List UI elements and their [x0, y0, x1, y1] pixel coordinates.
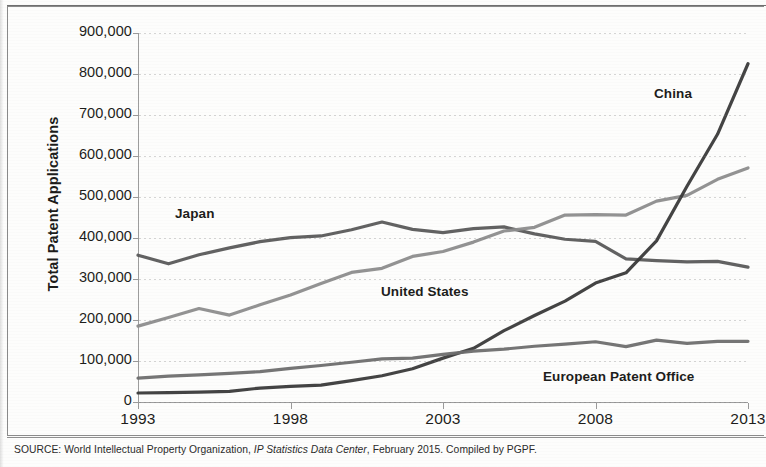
y-axis-tick: [133, 320, 139, 321]
gridline: [139, 361, 748, 362]
x-axis-tick: [138, 403, 139, 409]
y-axis-tick-label: 600,000: [40, 146, 132, 162]
page-scan-edge: [0, 0, 4, 467]
gridline: [139, 74, 748, 75]
gridline: [139, 197, 748, 198]
y-axis-line: [138, 33, 139, 403]
series-label-european-patent-office: European Patent Office: [543, 369, 694, 384]
x-axis-tick: [291, 403, 292, 409]
y-axis-tick: [133, 279, 139, 280]
y-axis-tick: [133, 33, 139, 34]
x-axis-tick-label: 2003: [403, 410, 483, 428]
y-axis-tick-label: 700,000: [40, 105, 132, 121]
y-axis-tick: [133, 361, 139, 362]
y-axis-tick-label: 400,000: [40, 228, 132, 244]
y-axis-tick: [133, 238, 139, 239]
source-suffix: , February 2015. Compiled by PGPF.: [367, 444, 537, 455]
y-axis-tick-label: 500,000: [40, 187, 132, 203]
x-axis-tick: [748, 403, 749, 409]
y-axis-tick-label: 100,000: [40, 351, 132, 367]
series-label-china: China: [654, 86, 692, 101]
scanned-page: Total Patent Applications 0100,000200,00…: [0, 0, 766, 467]
y-axis-tick: [133, 74, 139, 75]
gridline: [139, 33, 748, 34]
y-axis-tick: [133, 115, 139, 116]
gridline: [139, 320, 748, 321]
source-prefix: SOURCE: World Intellectual Property Orga…: [14, 444, 254, 455]
y-axis-tick-labels: 0100,000200,000300,000400,000500,000600,…: [32, 0, 132, 430]
source-note: SOURCE: World Intellectual Property Orga…: [14, 444, 537, 455]
x-axis-tick-label: 2008: [556, 410, 636, 428]
y-axis-tick-label: 800,000: [40, 64, 132, 80]
x-axis-tick: [596, 403, 597, 409]
series-label-united-states: United States: [381, 284, 469, 299]
gridline: [139, 279, 748, 280]
y-axis-tick-label: 300,000: [40, 269, 132, 285]
y-axis-tick-label: 900,000: [40, 23, 132, 39]
y-axis-tick-label: 0: [40, 392, 132, 408]
source-divider: [7, 437, 766, 438]
y-axis-tick: [133, 156, 139, 157]
y-axis-tick: [133, 197, 139, 198]
source-publication-title: IP Statistics Data Center: [254, 444, 367, 455]
x-axis-tick-label: 1998: [251, 410, 331, 428]
x-axis-tick-label: 1993: [98, 410, 178, 428]
x-axis-tick-label: 2013: [708, 410, 766, 428]
x-axis-tick: [443, 403, 444, 409]
gridline: [139, 238, 748, 239]
gridline: [139, 115, 748, 116]
series-label-japan: Japan: [175, 206, 215, 221]
y-axis-tick-label: 200,000: [40, 310, 132, 326]
gridline: [139, 156, 748, 157]
